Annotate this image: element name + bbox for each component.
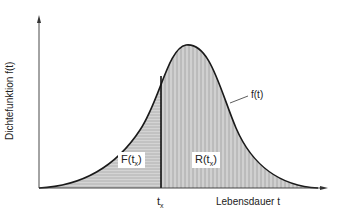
y-axis-label: Dichtefunktion f(t) [4,62,15,140]
area-R-right [39,45,318,188]
tx-label: tx [157,195,164,209]
region-label-R: R(tx) [192,152,220,168]
y-axis-arrow-icon [37,15,41,23]
x-axis-label: Lebensdauer t [216,196,280,207]
diagram-svg [0,0,344,215]
x-axis-arrow-icon [320,186,328,190]
curve-label: f(t) [251,89,263,100]
region-label-F: F(tx) [118,152,145,168]
curve-label-leader [230,96,248,103]
density-diagram: Dichtefunktion f(t) f(t) F(tx) R(tx) tx … [0,0,344,215]
